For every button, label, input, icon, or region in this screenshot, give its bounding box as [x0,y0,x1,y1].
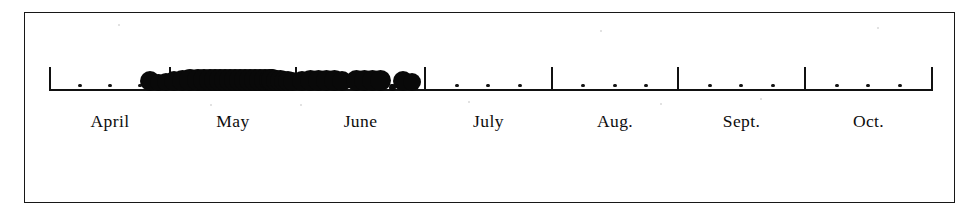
axis-minor-tick-6-1 [866,84,869,87]
axis-minor-tick-0-0 [78,84,81,87]
scan-speck-2 [300,104,302,106]
axis-minor-tick-3-0 [455,84,458,87]
month-label-aug: Aug. [552,110,678,132]
axis-minor-tick-6-0 [835,84,838,87]
month-label-april: April [50,110,170,132]
axis-minor-tick-6-2 [898,84,901,87]
scan-speck-7 [660,103,662,105]
month-label-june: June [296,110,425,132]
scan-speck-1 [600,30,602,32]
scan-speck-0 [468,101,470,103]
figure-frame [24,12,955,203]
axis-minor-tick-5-2 [771,84,774,87]
axis-minor-tick-3-1 [486,84,489,87]
axis-minor-tick-5-1 [739,84,742,87]
axis-minor-tick-4-1 [613,84,616,87]
axis-minor-tick-3-2 [518,84,521,87]
axis-major-tick-7 [931,67,933,91]
data-point [403,73,421,91]
scan-speck-4 [118,24,120,26]
data-point [370,70,391,91]
month-label-july: July [425,110,552,132]
month-label-oct: Oct. [805,110,932,132]
axis-minor-tick-4-2 [644,84,647,87]
scan-speck-5 [877,27,879,29]
figure-dot-plot: AprilMayJuneJulyAug.Sept.Oct. [0,0,980,217]
axis-minor-tick-4-0 [581,84,584,87]
axis-minor-tick-5-0 [708,84,711,87]
month-label-may: May [170,110,296,132]
axis-major-tick-6 [804,67,806,91]
scan-speck-3 [760,98,762,100]
axis-major-tick-5 [677,67,679,91]
axis-major-tick-3 [424,67,426,91]
axis-major-tick-4 [551,67,553,91]
axis-minor-tick-0-1 [108,84,111,87]
scan-speck-6 [210,104,212,106]
axis-major-tick-0 [49,67,51,91]
month-label-sept: Sept. [678,110,805,132]
